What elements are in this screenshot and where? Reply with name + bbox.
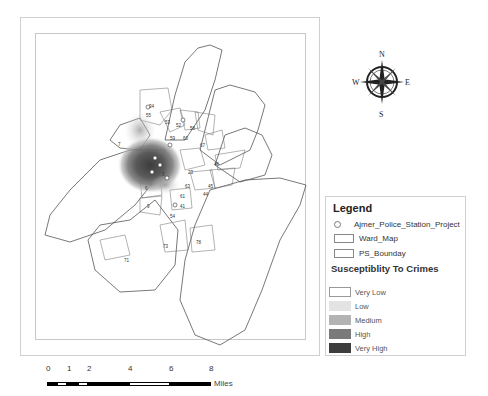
ps-boundary-polygons (45, 45, 306, 345)
svg-text:34: 34 (149, 104, 155, 109)
svg-text:73: 73 (163, 244, 169, 249)
svg-text:78: 78 (196, 240, 202, 245)
ward-polygon-swatch (334, 234, 354, 243)
legend-item-ward-map: Ward_Map (334, 234, 398, 243)
very-high-swatch (329, 343, 351, 353)
map-legend: Legend Ajmer_Police_Station_Project Ward… (325, 196, 466, 356)
legend-item-police-station: Ajmer_Police_Station_Project (334, 220, 460, 229)
svg-text:59: 59 (170, 136, 176, 141)
legend-title: Legend (333, 202, 372, 214)
svg-text:41: 41 (180, 204, 186, 209)
svg-text:46: 46 (214, 162, 220, 167)
svg-text:52: 52 (176, 123, 182, 128)
svg-text:W: W (352, 78, 360, 87)
svg-text:67: 67 (200, 143, 206, 148)
svg-text:61: 61 (180, 194, 186, 199)
svg-text:71: 71 (124, 258, 130, 263)
svg-text:45: 45 (208, 184, 214, 189)
svg-text:E: E (405, 78, 410, 87)
svg-text:55: 55 (146, 113, 152, 118)
legend-item-ps-boundary: PS_Bounday (334, 249, 406, 258)
svg-text:S: S (379, 110, 383, 118)
svg-text:N: N (379, 50, 385, 59)
class-low: Low (329, 301, 369, 311)
low-swatch (329, 301, 351, 311)
ps-boundary-swatch (334, 249, 354, 258)
svg-text:54: 54 (170, 214, 176, 219)
police-station-point-icon (334, 221, 341, 228)
high-swatch (329, 329, 351, 339)
class-very-low: Very Low (329, 287, 386, 297)
class-very-high: Very High (329, 343, 388, 353)
svg-text:7: 7 (118, 142, 121, 147)
medium-hotspot (124, 112, 156, 148)
medium-swatch (329, 315, 351, 325)
class-high: High (329, 329, 370, 339)
svg-text:58: 58 (190, 126, 196, 131)
svg-text:44: 44 (203, 192, 209, 197)
compass-rose-icon: N S W E (352, 48, 412, 118)
svg-text:60: 60 (183, 136, 189, 141)
svg-text:23: 23 (188, 170, 194, 175)
svg-text:53: 53 (165, 120, 171, 125)
very-low-swatch (329, 287, 351, 297)
class-medium: Medium (329, 315, 382, 325)
north-arrow-compass: N S W E (352, 48, 412, 118)
susceptibility-title: Susceptiblity To Crimes (331, 263, 439, 274)
svg-text:63: 63 (185, 184, 191, 189)
